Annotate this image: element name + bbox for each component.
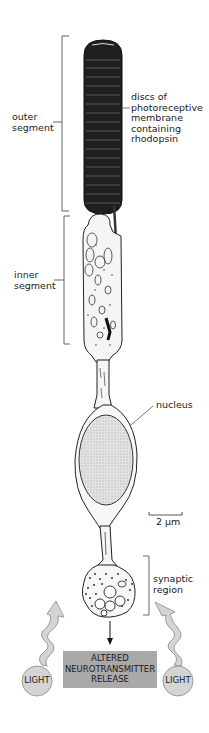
output-arrow — [107, 621, 113, 645]
outer-segment-bracket — [53, 36, 69, 211]
label-inner-line2: segment — [14, 281, 56, 292]
nucleus-pointer-line — [131, 406, 153, 425]
label-synaptic-region: synaptic region — [153, 574, 193, 595]
label-outer-line1: outer — [12, 112, 54, 123]
light-label-left: LIGHT — [22, 675, 52, 685]
label-nucleus: nucleus — [156, 400, 193, 411]
output-line3: RELEASE — [63, 674, 157, 685]
axon — [97, 526, 117, 566]
scale-bar — [149, 512, 182, 515]
output-box-text: ALTERED NEUROTRANSMITTER RELEASE — [63, 653, 157, 685]
light-wave-right — [155, 602, 182, 666]
label-discs-line3: membrane — [131, 113, 203, 124]
label-inner-line1: inner — [14, 270, 56, 281]
inner-segment-bracket — [54, 216, 70, 344]
cell-neck-upper — [94, 360, 112, 408]
synaptic-terminal — [82, 565, 135, 617]
light-label-right: LIGHT — [163, 675, 193, 685]
label-scale-bar: 2 µm — [156, 517, 180, 528]
label-outer-line2: segment — [12, 123, 54, 134]
label-discs-line1: discs of — [131, 92, 203, 103]
output-line1: ALTERED — [63, 653, 157, 664]
label-inner-segment: inner segment — [14, 270, 56, 291]
inner-segment — [83, 214, 122, 362]
synaptic-region-bracket — [143, 556, 149, 615]
output-line2: NEUROTRANSMITTER — [63, 664, 157, 675]
label-outer-segment: outer segment — [12, 112, 54, 133]
label-discs: discs of photoreceptive membrane contain… — [131, 92, 203, 145]
label-discs-line5: rhodopsin — [131, 134, 203, 145]
cell-body — [75, 405, 137, 528]
outer-segment — [84, 40, 122, 214]
light-wave-left — [39, 601, 64, 666]
label-synaptic-line2: region — [153, 585, 193, 596]
label-synaptic-line1: synaptic — [153, 574, 193, 585]
